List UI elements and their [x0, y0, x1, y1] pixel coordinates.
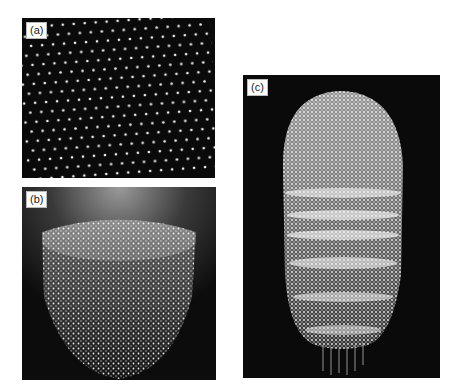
- panel-a-hex-lattice: (a): [22, 18, 215, 178]
- capsule-cluster-image: [243, 75, 440, 378]
- panel-label-b: (b): [26, 191, 47, 208]
- panel-c-capsule-cluster: (c): [243, 75, 440, 378]
- dome-cluster-image: [22, 187, 216, 380]
- hex-lattice-image: [22, 18, 215, 178]
- panel-label-c: (c): [247, 79, 268, 96]
- panel-b-dome-cluster: (b): [22, 187, 216, 380]
- panel-label-a: (a): [26, 22, 47, 39]
